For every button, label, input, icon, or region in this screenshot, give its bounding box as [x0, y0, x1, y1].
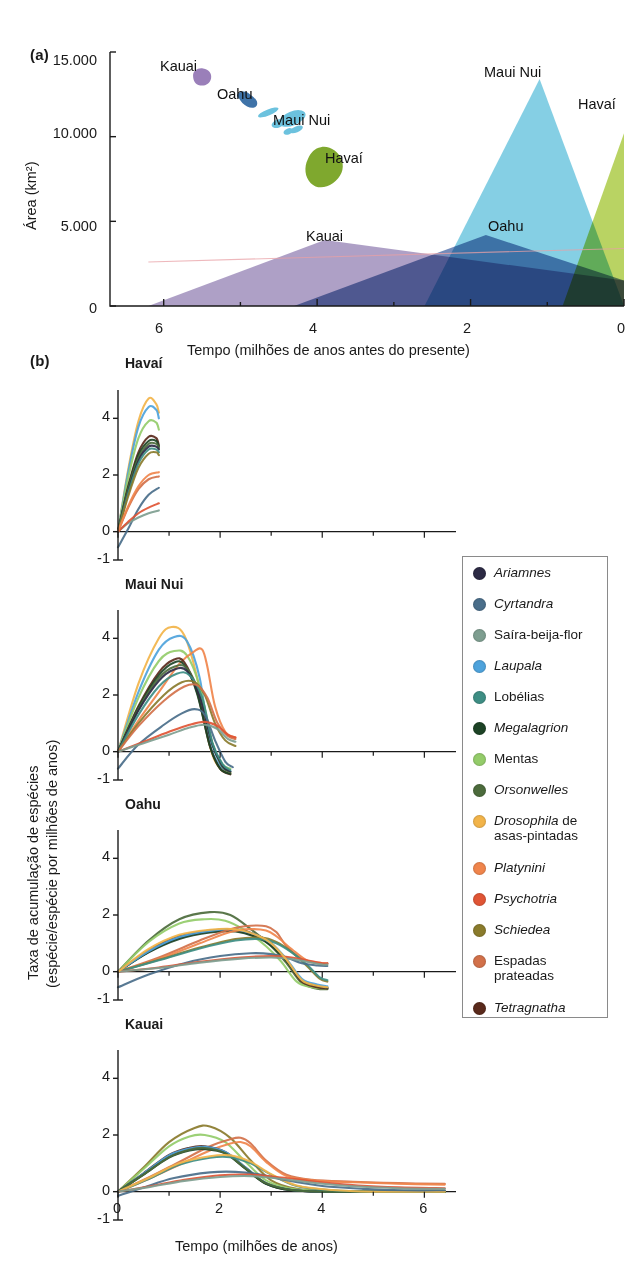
- legend-swatch-icon: [473, 598, 486, 611]
- legend-item-cyrtandra[interactable]: Cyrtandra: [473, 596, 553, 611]
- panel-a-xtick-2: 2: [463, 320, 471, 336]
- panel-a-island-label-mauinui: Maui Nui: [273, 112, 330, 128]
- panel-b-yaxis-label-line1: Taxa de acumulação de espécies: [24, 766, 42, 980]
- legend-item-label: Cyrtandra: [494, 596, 553, 611]
- legend-item-label: Megalagrion: [494, 720, 568, 735]
- legend-item-drosophila-de[interactable]: Drosophila deasas-pintadas: [473, 813, 578, 843]
- panel-b-oahu-ytick--1: -1: [78, 990, 110, 1006]
- legend-item-laupala[interactable]: Laupala: [473, 658, 542, 673]
- panel-b-maui-nui: [113, 610, 456, 780]
- legend-item-schiedea[interactable]: Schiedea: [473, 922, 550, 937]
- legend-swatch-icon: [473, 784, 486, 797]
- subplot-title-maui-nui: Maui Nui: [125, 576, 183, 592]
- panel-b-kauai-ytick-4: 4: [78, 1068, 110, 1084]
- legend-swatch-icon: [473, 753, 486, 766]
- panel-b-xaxis-label: Tempo (milhões de anos): [175, 1238, 338, 1254]
- legend: AriamnesCyrtandraSaíra-beija-florLaupala…: [462, 556, 608, 1018]
- legend-item-label: Psychotria: [494, 891, 557, 906]
- panel-a-area-label-havai: Havaí: [578, 96, 616, 112]
- legend-item-label: Espadas prateadas: [494, 953, 554, 983]
- panel-a-ytick-0: 0: [30, 300, 97, 316]
- panel-b-kauai-ytick-2: 2: [78, 1125, 110, 1141]
- panel-a-ytick-15000: 15.000: [30, 52, 97, 68]
- panel-b-kauai-ytick--1: -1: [78, 1210, 110, 1226]
- panel-b-xtick-2: 2: [215, 1200, 223, 1216]
- panel-a-island-label-kauai: Kauai: [160, 58, 197, 74]
- panel-b-oahu: [113, 830, 456, 1000]
- panel-a-ytick-10000: 10.000: [30, 125, 97, 141]
- legend-item-espadas[interactable]: Espadas prateadas: [473, 953, 554, 983]
- legend-swatch-icon: [473, 815, 486, 828]
- legend-item-tetragnatha[interactable]: Tetragnatha: [473, 1000, 566, 1015]
- subplot-title-kauai: Kauai: [125, 1016, 163, 1032]
- legend-item-label: Platynini: [494, 860, 545, 875]
- panel-b-oahu-ytick-4: 4: [78, 848, 110, 864]
- panel-a-island-label-havai: Havaí: [325, 150, 363, 166]
- legend-item-label: Ariamnes: [494, 565, 551, 580]
- panel-b-havai-ytick--1: -1: [78, 550, 110, 566]
- panel-a-area-label-mauinui: Maui Nui: [484, 64, 541, 80]
- legend-swatch-icon: [473, 722, 486, 735]
- legend-swatch-icon: [473, 567, 486, 580]
- legend-swatch-icon: [473, 924, 486, 937]
- panel-b-oahu-ytick-0: 0: [78, 962, 110, 978]
- panel-b-havai-ytick-4: 4: [78, 408, 110, 424]
- legend-item-label: Laupala: [494, 658, 542, 673]
- panel-b-havai-ytick-2: 2: [78, 465, 110, 481]
- panel-b-maui-nui-ytick-4: 4: [78, 628, 110, 644]
- panel-a-area-label-kauai: Kauai: [306, 228, 343, 244]
- subplot-title-oahu: Oahu: [125, 796, 161, 812]
- panel-b-kauai: [113, 1050, 456, 1220]
- legend-item-psychotria[interactable]: Psychotria: [473, 891, 557, 906]
- panel-a-island-label-oahu: Oahu: [217, 86, 252, 102]
- legend-item-megalagrion[interactable]: Megalagrion: [473, 720, 568, 735]
- legend-item-label: Lobélias: [494, 689, 544, 704]
- legend-swatch-icon: [473, 629, 486, 642]
- legend-item-label: Mentas: [494, 751, 538, 766]
- legend-item-label: Tetragnatha: [494, 1000, 566, 1015]
- legend-item-label: Saíra-beija-flor: [494, 627, 583, 642]
- curve-mentas: [118, 650, 230, 768]
- legend-item-label: Drosophila deasas-pintadas: [494, 813, 578, 843]
- legend-item-sa-ra-beija-flor[interactable]: Saíra-beija-flor: [473, 627, 583, 642]
- panel-b-maui-nui-ytick--1: -1: [78, 770, 110, 786]
- panel-b-oahu-ytick-2: 2: [78, 905, 110, 921]
- curve-sa-ra-beija-flor: [118, 957, 327, 971]
- legend-swatch-icon: [473, 691, 486, 704]
- panel-a-xtick-0: 0: [617, 320, 625, 336]
- legend-item-label: Orsonwelles: [494, 782, 568, 797]
- legend-swatch-icon: [473, 955, 486, 968]
- panel-b-xtick-0: 0: [113, 1200, 121, 1216]
- legend-item-ariamnes[interactable]: Ariamnes: [473, 565, 551, 580]
- panel-a-yaxis-label: Área (km²): [22, 162, 40, 230]
- legend-swatch-icon: [473, 862, 486, 875]
- panel-b-maui-nui-ytick-2: 2: [78, 685, 110, 701]
- legend-item-orsonwelles[interactable]: Orsonwelles: [473, 782, 568, 797]
- panel-b-yaxis-label-line2: (espécie/espécie por milhões de anos): [43, 740, 61, 988]
- legend-item-platynini[interactable]: Platynini: [473, 860, 545, 875]
- panel-b-maui-nui-ytick-0: 0: [78, 742, 110, 758]
- panel-a-plot: [0, 40, 643, 340]
- legend-swatch-icon: [473, 660, 486, 673]
- panel-b-xtick-4: 4: [317, 1200, 325, 1216]
- panel-a-xtick-6: 6: [155, 320, 163, 336]
- legend-swatch-icon: [473, 893, 486, 906]
- legend-item-lob-lias[interactable]: Lobélias: [473, 689, 544, 704]
- legend-item-mentas[interactable]: Mentas: [473, 751, 538, 766]
- figure-root: (a) 15.000 10.000 5.000 0 6 4 2 0 Tempo …: [0, 0, 643, 1272]
- panel-a-area-label-oahu: Oahu: [488, 218, 523, 234]
- panel-b-havai-ytick-0: 0: [78, 522, 110, 538]
- subplot-title-havai: Havaí: [125, 355, 162, 371]
- panel-b-xtick-6: 6: [419, 1200, 427, 1216]
- panel-b-havai: [113, 390, 456, 560]
- panel-b-kauai-ytick-0: 0: [78, 1182, 110, 1198]
- panel-a-xtick-4: 4: [309, 320, 317, 336]
- legend-swatch-icon: [473, 1002, 486, 1015]
- legend-item-label: Schiedea: [494, 922, 550, 937]
